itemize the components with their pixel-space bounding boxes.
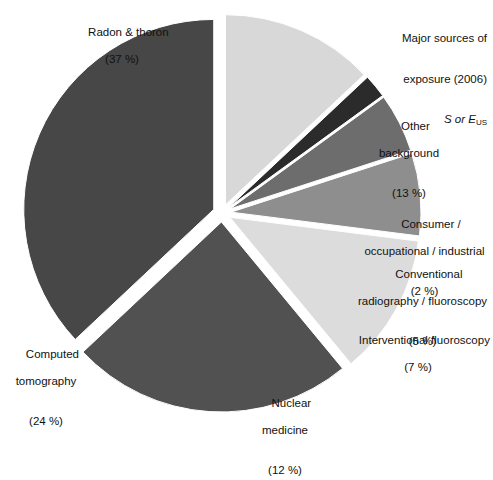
slice-label-other-background-line2: background	[366, 147, 452, 161]
slice-label-nuclear-line2: medicine	[240, 424, 330, 438]
slice-label-nuclear-line1: Nuclear	[272, 397, 312, 409]
slice-label-computed-tomography: Computed tomography (24 %)	[0, 334, 92, 456]
slice-label-radon: Radon & thoron (37 %)	[32, 12, 212, 93]
slice-label-radon-text: Radon & thoron	[88, 26, 169, 38]
symbol-subscript: US	[476, 118, 487, 127]
slice-label-nuclear-pct: (12 %)	[240, 464, 330, 478]
slice-label-other-background-pct: (13 %)	[366, 187, 452, 201]
slice-label-nuclear-medicine: Nuclear medicine (12 %)	[240, 383, 330, 480]
slice-label-consumer-line1: Consumer /	[401, 218, 460, 230]
slice-label-ct-line2: tomography	[0, 375, 92, 389]
symbol-or: or	[455, 113, 465, 125]
slice-label-conventional-line1: Conventional	[395, 268, 462, 280]
chart-title-line1: Major sources of	[402, 32, 487, 46]
slice-label-ct-pct: (24 %)	[0, 415, 92, 429]
slice-label-conventional-line2: radiography / fluoroscopy	[352, 295, 493, 309]
slice-label-other-background-line1: Other	[401, 120, 430, 132]
slice-label-interventional-line1: Interventional fluoroscopy	[359, 334, 490, 346]
slice-label-ct-line1: Computed	[26, 348, 79, 360]
symbol-e: E	[468, 113, 476, 125]
slice-label-interventional-fluoroscopy: Interventional fluoroscopy (7 %)	[343, 320, 493, 401]
slice-label-interventional-pct: (7 %)	[343, 361, 493, 375]
chart-title-line2: exposure (2006)	[402, 73, 487, 87]
slice-label-radon-pct: (37 %)	[32, 53, 212, 67]
